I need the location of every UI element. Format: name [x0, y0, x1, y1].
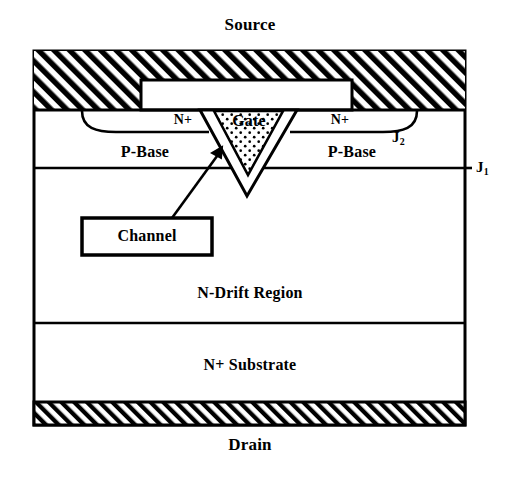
channel-callout-label: Channel [117, 228, 176, 244]
junction-j1-letter: J [476, 159, 484, 175]
n-plus-right-label: N+ [331, 113, 350, 127]
n-plus-left-label: N+ [174, 113, 193, 127]
junction-j2-label: J2 [392, 130, 405, 147]
junction-j2-letter: J [392, 129, 400, 145]
gate-oxide-pad [141, 80, 352, 110]
p-base-left-label: P-Base [121, 144, 169, 160]
junction-j1-subscript: 1 [484, 166, 489, 177]
drain-metal-region [34, 402, 465, 425]
p-base-right-label: P-Base [328, 144, 376, 160]
source-terminal-label: Source [225, 16, 276, 33]
n-drift-region-label: N-Drift Region [197, 285, 302, 301]
junction-j2-subscript: 2 [400, 136, 405, 147]
gate-region-label: Gate [232, 113, 266, 129]
n-plus-substrate-label: N+ Substrate [204, 357, 297, 373]
figure-canvas: Source Drain Gate N+ N+ P-Base P-Base N-… [0, 0, 508, 479]
junction-j1-label: J1 [476, 160, 489, 177]
drain-terminal-label: Drain [228, 436, 272, 453]
device-cross-section-svg [0, 0, 508, 479]
